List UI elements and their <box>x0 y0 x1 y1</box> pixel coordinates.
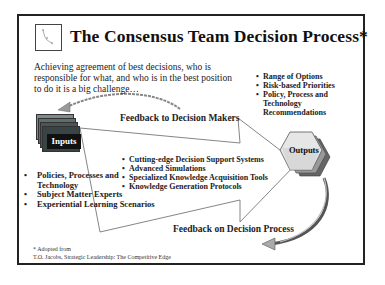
list-item: Policy, Process and Technology Recommend… <box>256 90 366 117</box>
inputs-list: Policies, Processes and Technology Subje… <box>23 171 138 209</box>
list-item: Advanced Simulations <box>122 164 268 173</box>
team-logo-icon <box>35 24 62 51</box>
list-item: Policies, Processes and Technology <box>23 171 138 190</box>
list-item: Risk-based Priorities <box>256 81 366 90</box>
page-title: The Consensus Team Decision Process* <box>70 26 368 47</box>
list-item: Experiential Learning Scenarios <box>23 200 138 210</box>
intro-text: Achieving agreement of best decisions, w… <box>34 62 234 95</box>
process-tools-list: Cutting-edge Decision Support Systems Ad… <box>122 155 268 191</box>
footnote-line-1: * Adopted from <box>33 246 171 254</box>
footnote-line-2: T.O. Jacobs, Strategic Leadership: The C… <box>33 254 171 262</box>
list-item: Range of Options <box>256 72 366 81</box>
feedback-top-arc-icon <box>65 94 180 109</box>
list-item: Specialized Knowledge Acquisition Tools <box>122 173 268 182</box>
outputs-list: Range of Options Risk-based Priorities P… <box>256 72 366 117</box>
outputs-box: Outputs <box>289 145 319 155</box>
list-item: Knowledge Generation Protocols <box>122 182 268 191</box>
inputs-box: Inputs <box>47 134 81 149</box>
feedback-to-decision-makers-label: Feedback to Decision Makers <box>120 113 240 123</box>
list-item: Cutting-edge Decision Support Systems <box>122 155 268 164</box>
feedback-on-decision-process-label: Feedback on Decision Process <box>173 224 294 234</box>
footnote: * Adopted from T.O. Jacobs, Strategic Le… <box>33 246 171 261</box>
